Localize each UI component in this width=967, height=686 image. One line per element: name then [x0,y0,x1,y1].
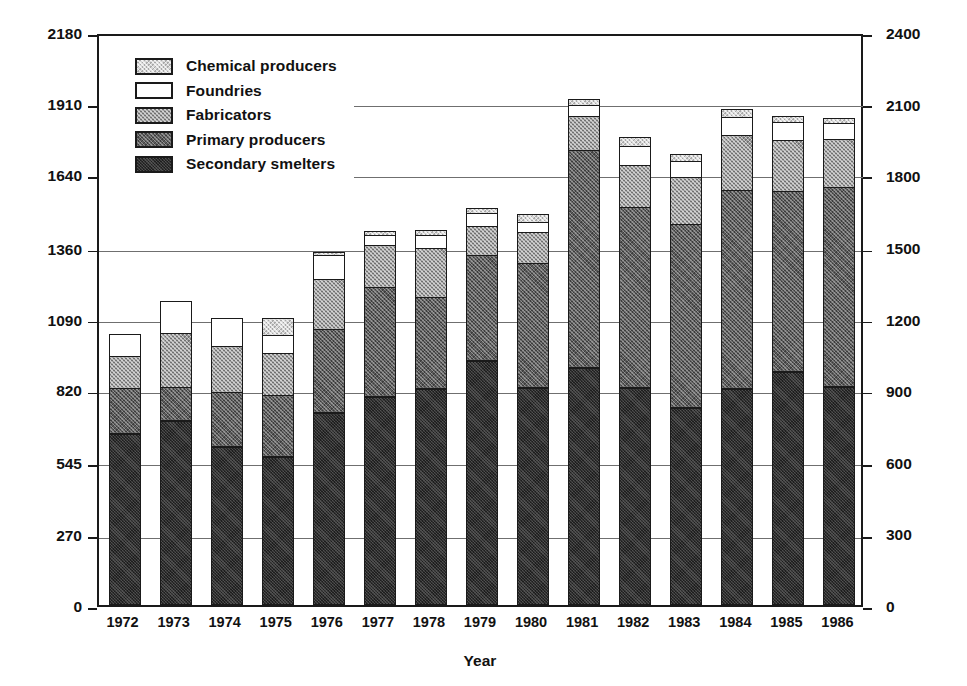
bar-segment-chemical-producers [262,318,294,336]
bar-segment-fabricators [823,139,855,189]
bar-segment-fabricators [772,140,804,193]
bar-segment-secondary-smelters [109,434,141,605]
bar-1980[interactable] [517,216,549,605]
bar-segment-foundries [721,117,753,137]
bar-segment-secondary-smelters [568,368,600,605]
tick-mark [863,537,872,539]
y-tick-left-545: 545 [22,456,82,472]
bar-segment-foundries [619,146,651,167]
bar-segment-fabricators [415,248,447,299]
legend-swatch-icon [135,131,173,148]
legend-item-primary-producers[interactable]: Primary producers [135,131,337,149]
y-tick-left-1910: 1910 [22,97,82,113]
y-tick-right-2400: 2400 [886,26,946,42]
bar-segment-primary-producers [415,297,447,389]
bar-segment-primary-producers [772,191,804,372]
x-tick-1974: 1974 [199,614,250,630]
bar-segment-secondary-smelters [313,413,345,605]
y-tick-right-900: 900 [886,384,946,400]
legend-item-fabricators[interactable]: Fabricators [135,106,337,124]
x-tick-1979: 1979 [454,614,505,630]
bar-segment-primary-producers [313,329,345,413]
tick-mark [863,177,872,179]
bar-segment-primary-producers [517,263,549,388]
bar-segment-foundries [109,334,141,358]
bar-segment-fabricators [313,279,345,330]
bar-1978[interactable] [415,232,447,605]
bar-1981[interactable] [568,100,600,605]
bar-segment-foundries [313,255,345,281]
bar-segment-primary-producers [466,255,498,360]
x-tick-1985: 1985 [761,614,812,630]
legend-item-foundries[interactable]: Foundries [135,82,337,100]
tick-mark [88,608,97,610]
tick-mark [88,322,97,324]
x-tick-1977: 1977 [352,614,403,630]
y-tick-right-1200: 1200 [886,313,946,329]
bar-segment-foundries [262,335,294,355]
bar-segment-secondary-smelters [211,447,243,605]
bar-segment-secondary-smelters [262,457,294,606]
y-tick-left-270: 270 [22,528,82,544]
bar-1984[interactable] [721,111,753,605]
y-tick-right-0: 0 [886,599,946,615]
x-tick-1976: 1976 [301,614,352,630]
tick-mark [863,608,872,610]
bar-1977[interactable] [364,233,396,605]
bar-segment-primary-producers [109,388,141,434]
y-tick-left-0: 0 [22,599,82,615]
bar-segment-fabricators [619,165,651,208]
bar-1986[interactable] [823,120,855,605]
tick-mark [863,465,872,467]
bar-1983[interactable] [670,155,702,605]
bar-segment-fabricators [568,116,600,151]
bar-1974[interactable] [211,319,243,605]
bar-segment-secondary-smelters [670,408,702,605]
legend-item-label: Fabricators [186,106,272,124]
bar-segment-secondary-smelters [415,389,447,605]
legend-swatch-icon [135,156,173,173]
y-tick-left-1360: 1360 [22,242,82,258]
bar-segment-fabricators [364,245,396,288]
bar-segment-fabricators [721,135,753,192]
legend-item-label: Chemical producers [186,57,337,75]
legend-item-label: Secondary smelters [186,155,335,173]
x-tick-1980: 1980 [506,614,557,630]
bar-segment-secondary-smelters [160,421,192,605]
legend-swatch-icon [135,107,173,124]
legend-item-secondary-smelters[interactable]: Secondary smelters [135,155,337,173]
bar-1975[interactable] [262,320,294,605]
bar-segment-foundries [211,318,243,348]
bar-segment-secondary-smelters [517,388,549,605]
x-axis-title: Year [97,652,863,670]
y-axis-right-title: U.S. consumption, tons × 103 [620,0,648,28]
bar-segment-secondary-smelters [823,387,855,605]
x-axis-ticks: 1972197319741975197619771978197919801981… [97,614,863,638]
y-tick-right-300: 300 [886,527,946,543]
bar-segment-primary-producers [211,392,243,447]
bar-segment-secondary-smelters [721,389,753,605]
legend-item-chemical-producers[interactable]: Chemical producers [135,57,337,75]
x-tick-1981: 1981 [557,614,608,630]
y-axis-right-ticks: 030060090012001500180021002400 [886,0,946,686]
tick-mark [88,35,97,37]
bar-1982[interactable] [619,138,651,605]
y-tick-left-820: 820 [22,383,82,399]
y-tick-left-1640: 1640 [22,168,82,184]
x-tick-1972: 1972 [97,614,148,630]
bar-segment-secondary-smelters [619,388,651,605]
bar-segment-primary-producers [262,395,294,457]
bar-1979[interactable] [466,209,498,605]
bar-segment-fabricators [670,177,702,226]
bar-segment-primary-producers [160,387,192,421]
tick-mark [88,251,97,253]
bar-segment-fabricators [466,226,498,258]
bar-1985[interactable] [772,117,804,605]
bar-1973[interactable] [160,302,192,605]
bar-segment-primary-producers [364,287,396,397]
bar-1976[interactable] [313,254,345,605]
bar-segment-primary-producers [823,187,855,387]
bar-1972[interactable] [109,335,141,605]
y-axis-left-title: U.S. consumption, metric tons × 103 [0,0,23,28]
chart-root: U.S. consumption, metric tons × 103 U.S.… [0,0,967,686]
